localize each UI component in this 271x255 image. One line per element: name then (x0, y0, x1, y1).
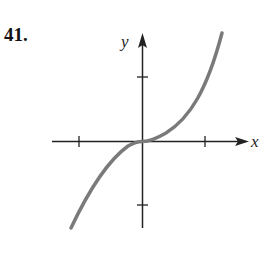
y-axis-label: y (119, 32, 129, 51)
graph: x y (0, 0, 271, 255)
x-axis-label: x (250, 132, 259, 151)
function-curve (71, 33, 222, 228)
